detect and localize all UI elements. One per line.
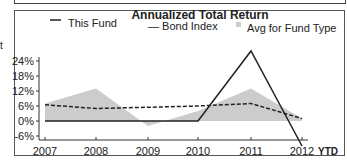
y-tick-label: 18% bbox=[12, 70, 34, 82]
y-tick-label: 0% bbox=[18, 115, 34, 127]
return-chart: Annualized Total Return This Fund — Bond… bbox=[0, 0, 347, 164]
y-tick-label: 6% bbox=[18, 100, 34, 112]
x-tick-label: 2008 bbox=[84, 145, 108, 157]
y-tick-label: 24% bbox=[12, 55, 34, 67]
legend-this-fund: This Fund bbox=[68, 17, 117, 29]
y-tick-label: -6% bbox=[14, 130, 34, 142]
x-tick-label: 2010 bbox=[186, 145, 210, 157]
legend-avg: Avg for Fund Type bbox=[247, 22, 336, 34]
x-tick-label: 2011 bbox=[239, 145, 263, 157]
legend-avg-swatch bbox=[236, 22, 241, 27]
legend-bond-index: — Bond Index bbox=[148, 20, 218, 32]
x-tick-label: 2009 bbox=[136, 145, 160, 157]
y-tick-label: 12% bbox=[12, 85, 34, 97]
ytd-label: YTD bbox=[318, 146, 338, 157]
x-tick-label: 2012 bbox=[290, 145, 314, 157]
plot-area bbox=[45, 51, 302, 146]
x-tick-label: 2007 bbox=[33, 145, 57, 157]
